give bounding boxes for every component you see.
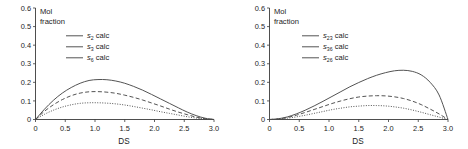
left-y-tick-label: 0.6 bbox=[21, 4, 31, 13]
right-curves bbox=[270, 70, 449, 119]
curve-s26 bbox=[270, 96, 449, 120]
right-x-ticks: 00.51.01.52.02.53.0 bbox=[267, 120, 453, 133]
right-x-tick-label: 1.0 bbox=[324, 124, 334, 133]
left-x-axis-title: DS bbox=[118, 137, 130, 146]
legend-label-s36: s36 calc bbox=[323, 42, 348, 52]
left-legend: s2 calcs3 calcs6 calc bbox=[66, 31, 110, 63]
curve-s3 bbox=[36, 103, 215, 120]
legend-label-s26: s26 calc bbox=[323, 53, 348, 63]
left-y-tick-label: 0.1 bbox=[21, 97, 31, 106]
right-x-tick-label: 0.5 bbox=[294, 124, 304, 133]
legend-label-s3: s3 calc bbox=[87, 42, 110, 52]
right-legend: s23 calcs36 calcs26 calc bbox=[302, 31, 348, 63]
left-x-tick-label: 3.0 bbox=[209, 124, 219, 133]
right-y-tick-label: 0.5 bbox=[255, 22, 265, 31]
left-y-tick-label: 0.2 bbox=[21, 78, 31, 87]
legend-label-s2: s2 calc bbox=[87, 31, 110, 41]
left-x-tick-label: 2.5 bbox=[179, 124, 189, 133]
chart-panel-right: 00.10.20.30.40.50.6 00.51.01.52.02.53.0 … bbox=[234, 0, 468, 149]
left-y-tick-label: 0 bbox=[27, 115, 31, 124]
right-x-tick-label: 2.0 bbox=[383, 124, 393, 133]
curve-s6 bbox=[36, 92, 215, 120]
curve-s36 bbox=[270, 106, 449, 120]
left-x-tick-label: 0 bbox=[33, 124, 37, 133]
right-y-tick-label: 0.1 bbox=[255, 97, 265, 106]
left-chart-svg: 00.10.20.30.40.50.6 00.51.01.52.02.53.0 … bbox=[0, 0, 234, 149]
legend-label-s6: s6 calc bbox=[87, 53, 110, 63]
left-curves bbox=[36, 79, 215, 119]
chart-panel-left: 00.10.20.30.40.50.6 00.51.01.52.02.53.0 … bbox=[0, 0, 234, 149]
right-x-axis-title: DS bbox=[352, 137, 364, 146]
right-x-tick-label: 0 bbox=[267, 124, 271, 133]
left-y-axis-label-line1: Mol bbox=[40, 7, 53, 16]
left-y-tick-label: 0.3 bbox=[21, 59, 31, 68]
right-x-tick-label: 2.5 bbox=[413, 124, 423, 133]
left-y-tick-label: 0.5 bbox=[21, 22, 31, 31]
left-y-ticks: 00.10.20.30.40.50.6 bbox=[21, 4, 36, 125]
left-x-tick-label: 1.0 bbox=[90, 124, 100, 133]
right-y-tick-label: 0.6 bbox=[255, 4, 265, 13]
left-x-tick-label: 0.5 bbox=[60, 124, 70, 133]
left-x-tick-label: 2.0 bbox=[149, 124, 159, 133]
left-y-axis-label-line2: fraction bbox=[40, 17, 65, 26]
right-y-tick-label: 0.3 bbox=[255, 59, 265, 68]
left-x-tick-label: 1.5 bbox=[120, 124, 130, 133]
right-y-ticks: 00.10.20.30.40.50.6 bbox=[255, 4, 270, 125]
legend-label-s23: s23 calc bbox=[323, 31, 348, 41]
right-y-axis-label-line1: Mol bbox=[274, 7, 287, 16]
right-y-axis-label-line2: fraction bbox=[274, 17, 299, 26]
right-x-tick-label: 1.5 bbox=[354, 124, 364, 133]
two-panel-figure: 00.10.20.30.40.50.6 00.51.01.52.02.53.0 … bbox=[0, 0, 468, 149]
left-y-tick-label: 0.4 bbox=[21, 41, 31, 50]
left-x-ticks: 00.51.01.52.02.53.0 bbox=[33, 120, 219, 133]
right-chart-svg: 00.10.20.30.40.50.6 00.51.01.52.02.53.0 … bbox=[234, 0, 468, 149]
right-y-tick-label: 0.2 bbox=[255, 78, 265, 87]
right-x-tick-label: 3.0 bbox=[443, 124, 453, 133]
right-y-tick-label: 0 bbox=[261, 115, 265, 124]
right-y-tick-label: 0.4 bbox=[255, 41, 265, 50]
